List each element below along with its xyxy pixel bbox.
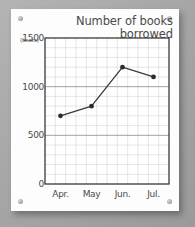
line-chart: 050010001500 Apr.MayJun.Jul. [11,9,179,211]
x-axis-tick-apr: Apr. [52,189,68,199]
x-axis-tick-jun: Jun. [115,189,131,199]
x-axis-tick-labels: Apr.MayJun.Jul. [11,9,179,211]
x-axis-tick-may: May [83,189,101,199]
chart-poster-card: Number of books borrowed in Shool A (boo… [11,9,179,211]
x-axis-tick-jul: Jul. [147,189,160,199]
